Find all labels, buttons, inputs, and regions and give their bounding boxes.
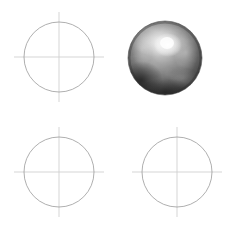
cell-bottom-right [132, 127, 222, 217]
sphere-occlusion-bottom [137, 78, 193, 106]
cell-top-right [119, 21, 202, 106]
sphere-hotspot [160, 37, 174, 49]
shaded-sphere [119, 21, 202, 106]
figure-canvas [0, 0, 236, 234]
cell-bottom-left [14, 127, 104, 217]
sphere-rendering-figure [0, 0, 236, 234]
cell-top-left [14, 12, 104, 102]
